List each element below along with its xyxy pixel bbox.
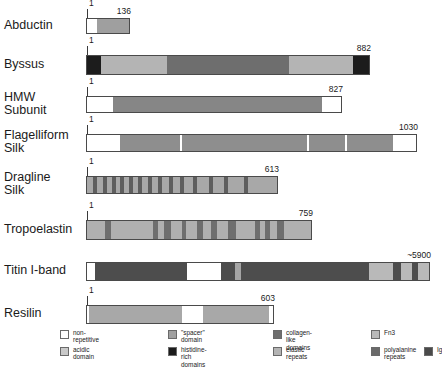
protein-label: Titin I-band: [4, 264, 66, 277]
domain-segment-collagen-like: [228, 221, 236, 239]
domain-segment-polyalanine-repeats: [244, 177, 248, 193]
domain-segment-polyalanine-repeats: [103, 177, 107, 193]
end-position-label: 759: [299, 209, 313, 218]
legend-swatch: [168, 347, 177, 356]
legend-swatch: [273, 330, 282, 339]
domain-segment-spacer-domain: [309, 135, 345, 151]
start-tick: [87, 167, 88, 176]
domain-segment-ig: [393, 263, 401, 280]
domain-segment-collagen-like: [182, 221, 186, 239]
domain-segment-collagen-like: [197, 221, 203, 239]
domain-segment-ig: [241, 263, 369, 280]
legend-swatch: [371, 347, 380, 356]
domain-segment-non-repetitive: [87, 19, 97, 33]
domain-segment-ig: [221, 263, 235, 280]
domain-segment-fn3: [369, 263, 393, 280]
legend-label: Fn3: [384, 329, 395, 336]
start-tick: [87, 87, 88, 96]
domain-segment-fn3: [401, 263, 412, 280]
domain-segment-polyalanine-repeats: [169, 177, 173, 193]
domain-segment-elastic-repeats: [289, 56, 353, 74]
domain-segment-collagen-like: [265, 221, 270, 239]
domain-track: [86, 176, 278, 194]
domain-segment-non-repetitive: [87, 263, 95, 280]
start-tick: [87, 46, 88, 55]
domain-segment-polyalanine-repeats: [93, 177, 97, 193]
domain-segment-elastic-repeats: [101, 56, 167, 74]
start-position-label: 1: [89, 36, 94, 45]
legend-swatch: [424, 347, 433, 356]
start-position-label: 1: [89, 0, 94, 8]
end-position-label: 613: [265, 165, 279, 174]
domain-segment-non-repetitive: [187, 263, 221, 280]
protein-label: Byssus: [4, 58, 44, 71]
legend-swatch: [273, 347, 282, 356]
domain-track: [86, 134, 417, 152]
protein-label: HMW Subunit: [4, 91, 46, 117]
legend-label: acidic domain: [73, 346, 94, 361]
protein-label: Dragline Silk: [4, 171, 51, 197]
domain-segment-collagen-like: [153, 221, 158, 239]
end-position-label: 827: [329, 85, 343, 94]
start-position-label: 1: [89, 201, 94, 210]
end-position-label: 1030: [399, 123, 418, 132]
domain-segment-collagen-like: [164, 221, 171, 239]
domain-segment-polyalanine-repeats: [112, 177, 116, 193]
domain-segment-non-repetitive: [87, 97, 113, 112]
domain-segment-polyalanine-repeats: [224, 177, 228, 193]
legend-swatch: [168, 330, 177, 339]
domain-track: [86, 262, 430, 281]
domain-track: [86, 96, 342, 113]
domain-segment-collagen-like: [211, 221, 217, 239]
domain-segment-spacer-domain: [120, 135, 180, 151]
protein-label: Tropoelastin: [4, 223, 72, 236]
legend-label: histidine-rich domains: [181, 346, 207, 368]
domain-segment-fn3: [418, 263, 430, 280]
legend-label: Ig: [437, 346, 442, 353]
start-position-label: 1: [89, 157, 94, 166]
domain-track: [86, 305, 274, 324]
domain-segment-polyalanine-repeats: [120, 177, 124, 193]
legend-label: non-repetitive: [73, 329, 99, 344]
legend-swatch: [60, 347, 69, 356]
domain-segment-collagen-like: [255, 221, 260, 239]
domain-segment-elastic-repeats: [89, 306, 182, 323]
legend-label: "spacer" domain: [181, 329, 205, 344]
end-position-label: 882: [357, 44, 371, 53]
end-position-label: 603: [261, 294, 275, 303]
protein-label: Resilin: [4, 307, 42, 320]
domain-segment-polyalanine-repeats: [148, 177, 152, 193]
domain-segment-histidine-rich: [353, 56, 370, 74]
domain-segment-non-repetitive: [87, 135, 120, 151]
domain-track: [86, 220, 312, 240]
legend-label: elastic repeats: [286, 346, 307, 361]
domain-segment-polyalanine-repeats: [193, 177, 197, 193]
start-tick: [87, 125, 88, 134]
protein-label: Abductin: [4, 19, 53, 32]
domain-segment-elastic-repeats: [97, 19, 130, 33]
start-tick: [87, 9, 88, 18]
domain-track: [86, 18, 130, 34]
start-position-label: 1: [89, 115, 94, 124]
legend-swatch: [60, 330, 69, 339]
domain-segment-collagen-like: [167, 56, 289, 74]
legend-label: polyalanine repeats: [384, 346, 416, 361]
end-position-label: 136: [117, 7, 131, 16]
legend-swatch: [371, 330, 380, 339]
domain-segment-polyalanine-repeats: [180, 177, 184, 193]
domain-segment-polyalanine-repeats: [158, 177, 162, 193]
domain-segment-elastic-repeats: [203, 306, 269, 323]
domain-segment-histidine-rich: [87, 56, 101, 74]
start-tick: [87, 211, 88, 220]
protein-label: Flagelliform Silk: [4, 129, 69, 155]
domain-segment-collagen-like: [105, 221, 111, 239]
domain-segment-polyalanine-repeats: [209, 177, 213, 193]
domain-track: [86, 55, 370, 75]
start-position-label: 1: [89, 286, 94, 295]
start-tick: [87, 296, 88, 305]
end-position-label: ~5900: [407, 251, 431, 260]
domain-segment-polyalanine-repeats: [138, 177, 142, 193]
legend: non-repetitiveacidic domain"spacer" doma…: [60, 330, 441, 364]
domain-segment-non-repetitive: [393, 135, 417, 151]
